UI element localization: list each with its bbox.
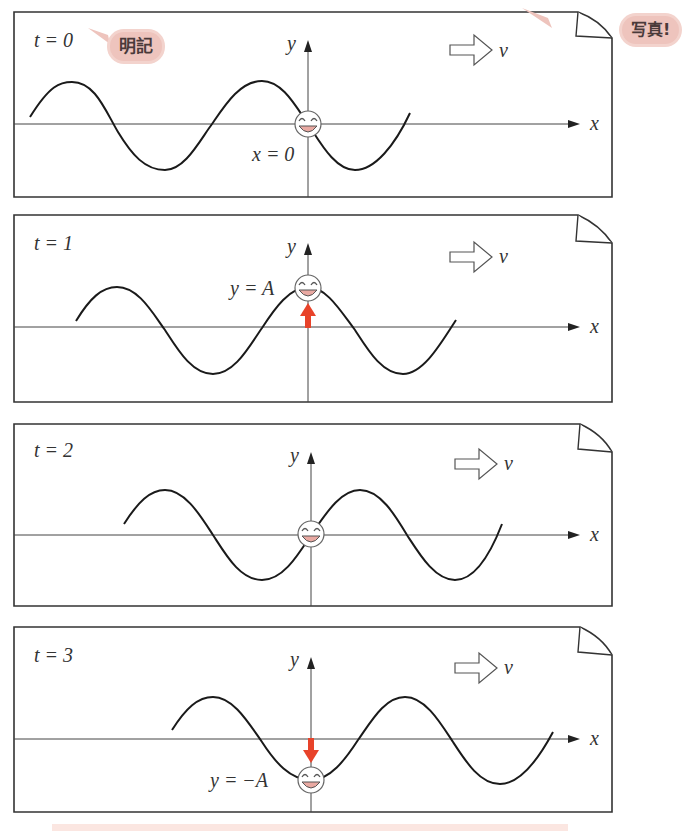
- time-label: t = 3: [34, 645, 73, 665]
- highlight-bar: [52, 824, 568, 831]
- panel-t3-graphics: [0, 0, 690, 831]
- velocity-label: v: [504, 657, 513, 677]
- page-curl-icon: [578, 627, 612, 655]
- smiley-face-icon: [298, 767, 324, 793]
- point-label: y = −A: [210, 770, 268, 790]
- x-axis-label: x: [590, 728, 599, 748]
- y-axis-label: y: [290, 649, 299, 669]
